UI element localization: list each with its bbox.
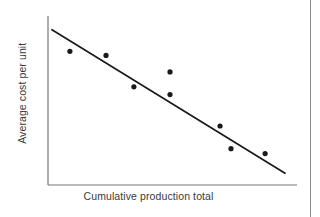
data-point bbox=[167, 69, 172, 74]
y-axis-label: Average cost per unit bbox=[18, 43, 29, 144]
x-axis-label: Cumulative production total bbox=[0, 191, 297, 202]
data-point bbox=[263, 151, 268, 156]
data-points-group bbox=[67, 49, 267, 156]
y-axis-label-container: Average cost per unit bbox=[0, 0, 46, 187]
chart-figure: Average cost per unit Cumulative product… bbox=[0, 0, 320, 217]
trend-line-group bbox=[52, 30, 285, 173]
trend-line bbox=[52, 30, 285, 173]
data-point bbox=[67, 49, 72, 54]
data-point bbox=[167, 92, 172, 97]
axes-group bbox=[48, 16, 297, 185]
data-point bbox=[217, 123, 222, 128]
data-point bbox=[228, 146, 233, 151]
data-point bbox=[131, 84, 136, 89]
data-point bbox=[103, 53, 108, 58]
scatter-plot-canvas bbox=[0, 0, 320, 217]
